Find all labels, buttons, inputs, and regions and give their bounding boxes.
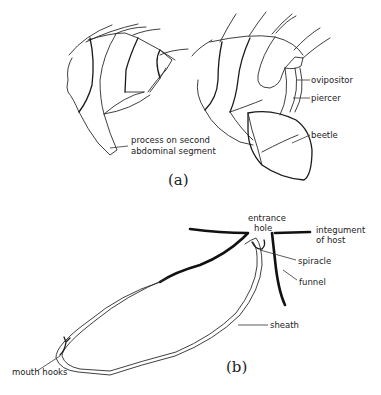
label-process-on-second: process on second bbox=[131, 135, 210, 145]
label-sheath: sheath bbox=[270, 320, 299, 330]
figure-canvas: process on second abdominal segment ovip… bbox=[0, 0, 381, 395]
label-funnel: funnel bbox=[299, 277, 326, 287]
label-hole: hole bbox=[254, 223, 272, 233]
label-piercer: piercer bbox=[311, 93, 341, 103]
label-ovipositor: ovipositor bbox=[311, 75, 354, 85]
label-beetle: beetle bbox=[311, 130, 338, 140]
label-integument: integument bbox=[316, 225, 366, 235]
larva-drawing bbox=[56, 229, 310, 375]
label-mouth-hooks: mouth hooks bbox=[12, 367, 68, 377]
label-of-host: of host bbox=[316, 235, 346, 245]
caption-a: (a) bbox=[168, 171, 189, 189]
caption-b: (b) bbox=[226, 358, 247, 376]
label-entrance: entrance bbox=[248, 213, 286, 223]
label-abdominal-segment: abdominal segment bbox=[131, 146, 216, 156]
label-spiracle: spiracle bbox=[298, 256, 331, 266]
